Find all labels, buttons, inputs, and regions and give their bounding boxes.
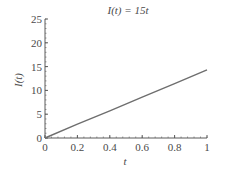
x-tick-label: 0.2 [71,141,85,153]
y-axis-label: I(t) [12,73,25,88]
x-tick-label: 0.8 [168,141,182,153]
y-tick-label: 10 [31,84,43,96]
x-tick-label: 1 [204,141,210,153]
x-tick-label: 0 [42,141,48,153]
x-tick-label: 0.4 [103,141,117,153]
line-chart: I(t) = 15t 0510152025 00.20.40.60.81 I(t… [0,0,225,173]
y-tick-label: 5 [37,108,43,120]
y-tick-label: 25 [31,13,43,25]
y-tick-label: 20 [31,37,43,49]
minor-ticks [45,19,207,138]
x-tick-label: 0.6 [135,141,149,153]
chart-title: I(t) = 15t [106,4,149,17]
series-line [45,70,207,138]
x-axis-label: t [123,155,127,167]
y-tick-label: 15 [31,61,43,73]
